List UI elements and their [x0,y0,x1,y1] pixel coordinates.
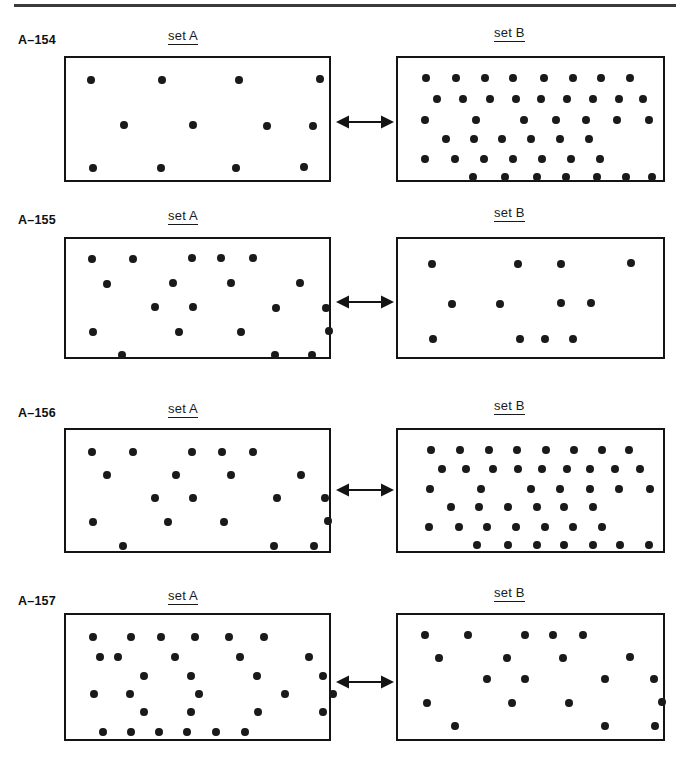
dot-box-a-A-155 [64,237,331,359]
dot-box-a-A-156 [64,428,331,553]
set-a-title: set A [168,588,198,605]
dot [88,255,96,264]
dot [87,76,95,85]
dot [513,446,521,455]
dot [480,155,488,164]
dot [310,542,318,551]
dot [556,485,564,494]
dot [225,633,233,642]
set-b-title: set B [494,398,525,415]
dot [249,448,257,457]
dot [527,135,535,144]
dot [598,446,606,455]
dot [120,121,128,130]
dot [428,260,436,269]
dot [175,328,183,337]
dot [626,74,634,83]
dot [477,485,485,494]
dot [451,722,459,731]
dot [589,95,597,104]
dot [585,135,593,144]
dot-box-b-A-156 [396,428,665,553]
set-a-title: set A [168,28,198,45]
dot [127,728,135,737]
dot [195,690,203,699]
dot [521,631,529,640]
dot [236,653,244,662]
dot [504,541,512,550]
double-headed-arrow-icon [336,481,394,499]
dot [648,173,656,182]
dot [498,135,506,144]
dot [586,465,594,474]
dot [562,173,570,182]
dot [220,518,228,527]
dot [503,654,511,663]
dot [541,523,549,532]
dot [601,722,609,731]
dot [520,116,528,125]
dot [538,465,546,474]
double-headed-arrow-icon [336,293,394,311]
dot [319,708,327,717]
dot [533,541,541,550]
double-headed-arrow-icon [336,113,394,131]
dot [646,485,654,494]
dot [552,116,560,125]
dot [425,523,433,532]
dot [271,351,279,360]
dot [103,280,111,289]
dot [483,675,491,684]
set-b-title: set B [494,585,525,602]
dot [319,672,327,681]
dot [496,300,504,309]
dot [157,164,165,173]
dot [508,699,516,708]
dot-box-a-A-157 [64,613,331,741]
dot [538,155,546,164]
dot [421,155,429,164]
dot-box-a-A-154 [64,56,331,182]
dot [435,654,443,663]
dot [627,259,635,268]
dot [472,116,480,125]
dot [481,74,489,83]
dot [433,95,441,104]
dot [140,672,148,681]
dot [615,95,623,104]
dot [452,74,460,83]
dot [297,471,305,480]
dot [126,690,134,699]
dot [260,633,268,642]
dot [442,135,450,144]
dot [421,116,429,125]
dot [90,690,98,699]
dot [579,631,587,640]
dot [593,173,601,182]
dot [589,541,597,550]
dot [651,722,659,731]
dot [189,494,197,503]
dot [151,303,159,312]
dot [556,135,564,144]
dot [587,299,595,308]
dot [129,448,137,457]
dot [89,633,97,642]
dot [542,446,550,455]
row-label: A–154 [18,33,56,47]
dot [89,518,97,527]
dot [645,116,653,125]
dot [164,518,172,527]
set-a-title: set A [168,401,198,418]
dot [155,728,163,737]
row-label: A–156 [18,406,56,420]
dot [273,494,281,503]
dot [489,465,497,474]
dot [622,173,630,182]
dot [309,122,317,131]
dot [308,351,316,360]
dot [151,494,159,503]
dot [235,76,243,85]
dot [188,448,196,457]
dot [422,74,430,83]
